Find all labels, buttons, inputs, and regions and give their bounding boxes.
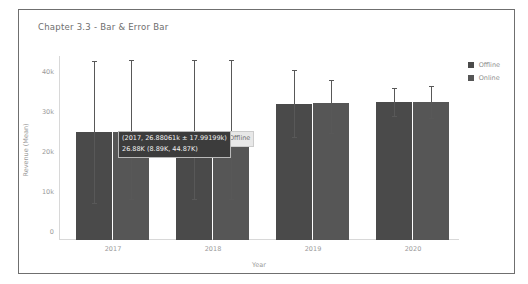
x-tick-label: 2019 xyxy=(305,245,322,253)
x-tick-label: 2017 xyxy=(105,245,122,253)
legend-label: Offline xyxy=(479,61,500,69)
y-axis-line xyxy=(59,56,60,240)
bar-offline-2020[interactable] xyxy=(376,102,412,240)
error-bar-offline-2018 xyxy=(194,60,195,201)
error-cap-bottom xyxy=(92,203,97,204)
x-axis-title: Year xyxy=(252,261,266,269)
error-bar-offline-2019 xyxy=(294,70,295,138)
y-axis-title: Revenue (Mean) xyxy=(22,123,30,176)
bar-online-2020[interactable] xyxy=(413,102,449,240)
tooltip-line-1: (2017, 26.88061k ± 17.99199k) xyxy=(122,133,227,144)
legend-item-offline[interactable]: Offline xyxy=(468,58,500,71)
error-cap-top xyxy=(192,60,197,61)
error-bar-offline-2017 xyxy=(94,61,95,205)
error-bar-offline-2020 xyxy=(394,88,395,117)
chart-frame: Chapter 3.3 - Bar & Error Bar Revenue (M… xyxy=(18,9,515,274)
legend-swatch-icon xyxy=(468,75,474,81)
error-bar-online-2019 xyxy=(331,80,332,135)
error-cap-top xyxy=(129,60,134,61)
y-tick-label: 0 xyxy=(50,228,54,236)
error-cap-bottom xyxy=(192,199,197,200)
error-cap-top xyxy=(292,70,297,71)
error-bar-online-2017 xyxy=(131,60,132,200)
error-cap-top xyxy=(329,80,334,81)
legend-item-online[interactable]: Online xyxy=(468,71,500,84)
error-cap-bottom xyxy=(429,118,434,119)
legend-label: Online xyxy=(479,74,500,82)
chart-title: Chapter 3.3 - Bar & Error Bar xyxy=(38,22,168,32)
y-tick-label: 30k xyxy=(42,108,54,116)
y-tick-label: 40k xyxy=(42,68,54,76)
error-cap-top xyxy=(429,86,434,87)
error-cap-bottom xyxy=(129,199,134,200)
error-cap-bottom xyxy=(229,199,234,200)
error-cap-top xyxy=(392,88,397,89)
y-tick-label: 10k xyxy=(42,188,54,196)
legend-swatch-icon xyxy=(468,62,474,68)
legend: OfflineOnline xyxy=(468,58,500,84)
error-cap-bottom xyxy=(292,137,297,138)
tooltip-line-2: 26.88K (8.89K, 44.87K) xyxy=(122,144,227,155)
x-tick-label: 2020 xyxy=(405,245,422,253)
bar-group: 2019 xyxy=(276,60,350,240)
chart-tooltip: (2017, 26.88061k ± 17.99199k) 26.88K (8.… xyxy=(118,131,231,158)
error-cap-bottom xyxy=(329,133,334,134)
error-bar-online-2020 xyxy=(431,86,432,119)
x-tick-label: 2018 xyxy=(205,245,222,253)
error-cap-top xyxy=(92,61,97,62)
bar-group: 2020 xyxy=(376,60,450,240)
y-tick-label: 20k xyxy=(42,148,54,156)
error-cap-top xyxy=(229,60,234,61)
error-cap-bottom xyxy=(392,116,397,117)
